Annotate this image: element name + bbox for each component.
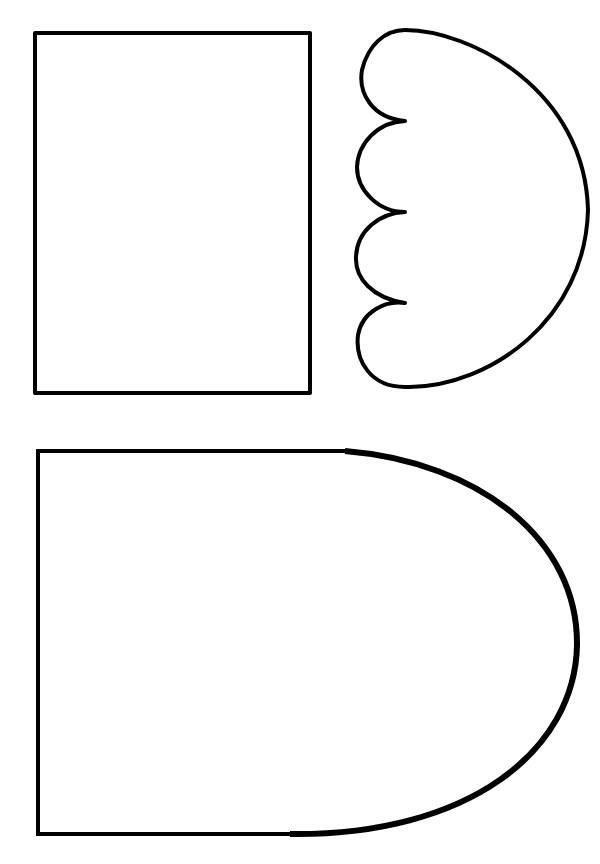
arch-shape [38, 451, 577, 834]
rectangle-shape [35, 33, 310, 393]
scalloped-half-circle-shape [356, 30, 588, 387]
template-canvas [0, 0, 600, 864]
